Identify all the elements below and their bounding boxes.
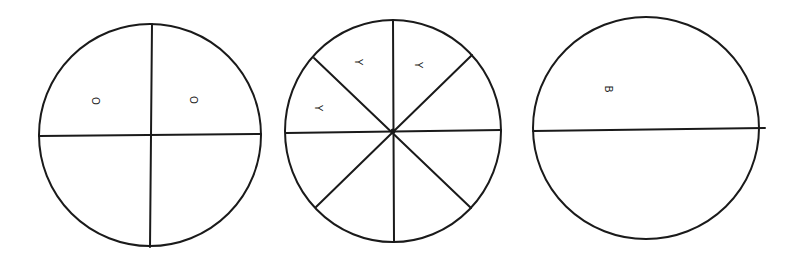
label-b: B <box>603 86 614 93</box>
horizontal-divider <box>533 128 765 131</box>
label-y-3: Y <box>313 105 324 112</box>
label-o-1: O <box>90 97 101 105</box>
horizontal-divider <box>39 134 261 136</box>
circle-halves: B <box>533 17 765 239</box>
fraction-circles-diagram: O O Y Y Y B <box>0 0 793 261</box>
center-point <box>391 129 396 134</box>
label-y-1: Y <box>353 59 364 66</box>
circle-quarters: O O <box>39 24 261 247</box>
label-o-2: O <box>188 96 199 104</box>
label-y-2: Y <box>413 62 424 69</box>
circle-eighths: Y Y Y <box>285 20 501 242</box>
